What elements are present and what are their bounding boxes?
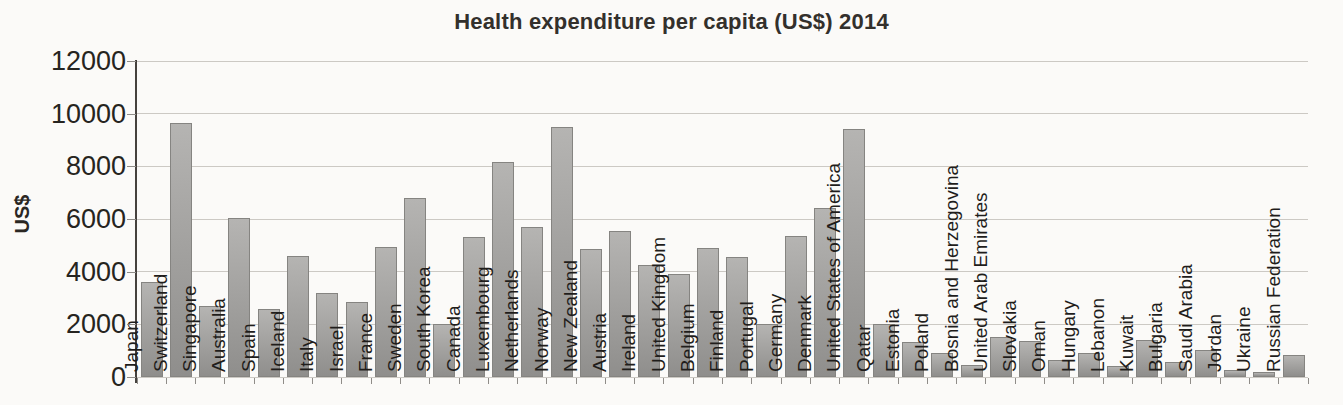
x-tick-mark (576, 378, 577, 384)
x-tick-mark (605, 378, 606, 384)
bar-label: South Korea (414, 266, 434, 372)
x-tick-mark (927, 378, 928, 384)
bar-label: Israel (327, 326, 347, 372)
bar-label: Saudi Arabia (1176, 264, 1196, 372)
y-tick-mark (127, 114, 136, 115)
x-tick-mark (1249, 378, 1250, 384)
y-tick-label: 0 (8, 364, 126, 391)
bar-label: Switzerland (151, 274, 171, 372)
bar-label: Singapore (180, 285, 200, 372)
bar-label: Oman (1029, 320, 1049, 372)
bar-label: Spain (239, 323, 259, 372)
bar-label: Ireland (619, 314, 639, 372)
bar-label: Poland (912, 313, 932, 372)
x-tick-mark (371, 378, 372, 384)
bar-label: Kuwait (1117, 315, 1137, 372)
bar-label: Bosnia and Herzegovina (942, 165, 962, 372)
bar-label: Finland (707, 310, 727, 372)
bar-label: Sweden (385, 303, 405, 372)
x-tick-mark (1190, 378, 1191, 384)
x-tick-mark (1278, 378, 1279, 384)
y-tick-label: 12000 (8, 48, 126, 75)
bar-label: Norway (532, 308, 552, 372)
x-tick-mark (1103, 378, 1104, 384)
x-tick-mark (488, 378, 489, 384)
x-tick-mark (663, 378, 664, 384)
bar-slot: Russian Federation (1279, 61, 1308, 377)
y-tick-label: 8000 (8, 153, 126, 180)
bar-ukraine (1253, 372, 1275, 377)
bar-label: Canada (444, 305, 464, 372)
bar-label: Estonia (883, 309, 903, 372)
bar-label: Germany (766, 294, 786, 372)
x-tick-mark (1161, 378, 1162, 384)
x-tick-mark (137, 378, 138, 384)
y-tick-label: 4000 (8, 259, 126, 286)
bar-label: Austria (590, 313, 610, 372)
bar-label: Ukraine (1234, 307, 1254, 372)
bar-label: Iceland (268, 311, 288, 372)
y-tick-mark (127, 61, 136, 62)
bar-label: Qatar (854, 324, 874, 372)
x-tick-mark (283, 378, 284, 384)
x-tick-mark (312, 378, 313, 384)
bar-label: United States of America (824, 163, 844, 372)
bar-label: Slovakia (1000, 300, 1020, 372)
x-tick-mark (1015, 378, 1016, 384)
x-tick-mark (898, 378, 899, 384)
bar-label: France (356, 313, 376, 372)
x-tick-mark (839, 378, 840, 384)
chart-title: Health expenditure per capita (US$) 2014 (0, 9, 1343, 35)
x-tick-mark (224, 378, 225, 384)
bar-label: Belgium (678, 303, 698, 372)
bar-label: Bulgaria (1146, 302, 1166, 372)
bar-label: New Zealand (561, 260, 581, 372)
x-tick-mark (429, 378, 430, 384)
bar-label: Portugal (737, 301, 757, 372)
bar-label: Russian Federation (1264, 207, 1284, 372)
x-tick-mark (1044, 378, 1045, 384)
x-tick-mark (195, 378, 196, 384)
y-tick-mark (127, 324, 136, 325)
y-tick-mark (127, 377, 136, 378)
y-tick-mark (127, 166, 136, 167)
bar-label: Netherlands (502, 270, 522, 372)
bar-label: Italy (297, 337, 317, 372)
x-tick-mark (868, 378, 869, 384)
x-tick-mark (810, 378, 811, 384)
bar-label: United Arab Emirates (971, 192, 991, 372)
x-tick-mark (166, 378, 167, 384)
x-tick-mark (985, 378, 986, 384)
bar-label: United Kingdom (649, 237, 669, 372)
y-tick-label: 10000 (8, 101, 126, 128)
x-tick-mark (1308, 378, 1309, 384)
x-tick-mark (254, 378, 255, 384)
x-tick-mark (1132, 378, 1133, 384)
bar-label: Jordan (1205, 314, 1225, 372)
bar-label: Denmark (795, 295, 815, 372)
bar-label: Luxembourg (473, 266, 493, 372)
y-tick-mark (127, 272, 136, 273)
plot-area: JapanSwitzerlandSingaporeAustraliaSpainI… (137, 61, 1308, 377)
x-tick-mark (546, 378, 547, 384)
x-tick-mark (781, 378, 782, 384)
x-tick-mark (517, 378, 518, 384)
bar-label: Australia (209, 298, 229, 372)
x-tick-mark (1073, 378, 1074, 384)
bar-russian-federation (1283, 355, 1305, 377)
x-tick-mark (341, 378, 342, 384)
y-tick-label: 6000 (8, 206, 126, 233)
bar-slot: Iceland (283, 61, 312, 377)
x-tick-mark (693, 378, 694, 384)
x-tick-mark (634, 378, 635, 384)
y-tick-label: 2000 (8, 311, 126, 338)
x-tick-mark (459, 378, 460, 384)
x-tick-mark (1220, 378, 1221, 384)
x-tick-mark (751, 378, 752, 384)
bar-chart: Health expenditure per capita (US$) 2014… (0, 0, 1343, 405)
y-tick-mark (127, 219, 136, 220)
bar-label: Lebanon (1088, 298, 1108, 372)
x-tick-mark (956, 378, 957, 384)
bar-label: Hungary (1059, 300, 1079, 372)
x-tick-mark (722, 378, 723, 384)
